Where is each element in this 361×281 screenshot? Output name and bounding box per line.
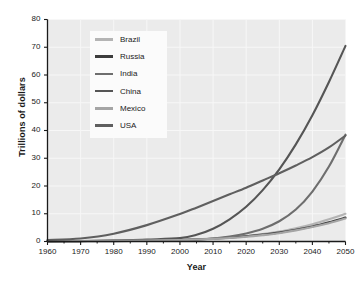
y-tick-label: 10	[21, 208, 41, 217]
legend-swatch-icon	[95, 107, 113, 110]
legend-label: USA	[120, 121, 136, 130]
y-tick-label: 30	[21, 153, 41, 162]
x-tick-label: 2020	[231, 247, 261, 256]
legend-item-mexico[interactable]: Mexico	[90, 100, 167, 117]
y-tick-label: 40	[21, 125, 41, 134]
legend-swatch-icon	[95, 124, 113, 127]
y-tick-label: 0	[21, 236, 41, 245]
legend-item-brazil[interactable]: Brazil	[90, 31, 167, 48]
legend-swatch-icon	[95, 38, 113, 41]
legend-label: China	[120, 87, 141, 96]
legend-item-india[interactable]: India	[90, 65, 167, 82]
x-tick-label: 1960	[33, 247, 63, 256]
y-tick-label: 50	[21, 97, 41, 106]
x-axis-title: Year	[47, 262, 346, 272]
x-tick-label: 1970	[66, 247, 96, 256]
legend-item-usa[interactable]: USA	[90, 117, 167, 134]
x-tick-label: 2000	[165, 247, 195, 256]
x-tick-label: 2050	[331, 247, 361, 256]
legend-label: Russia	[120, 52, 144, 61]
line-chart-canvas	[0, 0, 361, 281]
legend-swatch-icon	[95, 90, 113, 93]
x-tick-label: 1980	[99, 247, 129, 256]
legend-item-china[interactable]: China	[90, 83, 167, 100]
y-tick-label: 60	[21, 70, 41, 79]
legend-label: India	[120, 69, 137, 78]
x-tick-label: 2030	[264, 247, 294, 256]
legend-label: Brazil	[120, 35, 140, 44]
y-tick-label: 80	[21, 14, 41, 23]
x-tick-label: 2010	[198, 247, 228, 256]
legend-swatch-icon	[95, 55, 113, 58]
x-tick-label: 1990	[132, 247, 162, 256]
chart-figure: Trillions of dollars Year 01020304050607…	[0, 0, 361, 281]
y-tick-label: 20	[21, 181, 41, 190]
legend-label: Mexico	[120, 104, 145, 113]
x-tick-label: 2040	[297, 247, 327, 256]
legend-item-russia[interactable]: Russia	[90, 48, 167, 65]
chart-legend: BrazilRussiaIndiaChinaMexicoUSA	[90, 31, 167, 138]
y-axis-title: Trillions of dollars	[17, 47, 27, 187]
legend-swatch-icon	[95, 73, 113, 76]
y-tick-label: 70	[21, 42, 41, 51]
